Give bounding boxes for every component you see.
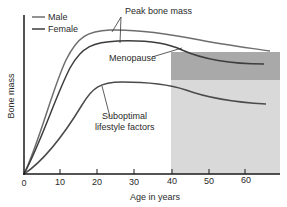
bone-mass-chart: 0 10 20 30 40 50 60 Age in years Bone ma… [0,0,287,207]
y-axis-label: Bone mass [6,73,16,119]
x-tick-label: 10 [55,177,65,187]
x-tick-label: 30 [129,177,139,187]
annotation-suboptimal-2: lifestyle factors [95,122,155,132]
legend-label-female: Female [48,24,78,34]
x-tick-label: 40 [167,176,177,186]
annotation-suboptimal-1: Suboptimal [102,111,147,121]
x-tick-label: 60 [241,175,251,185]
annotation-peak-bone-mass: Peak bone mass [125,6,193,16]
legend: Male Female [32,12,78,34]
peak-pointer-female [120,17,121,43]
annotation-menopause: Menopause [109,53,156,63]
legend-label-male: Male [48,12,68,22]
x-tick-label: 20 [92,177,102,187]
shaded-region-lower [171,80,280,174]
x-tick-label: 0 [21,178,26,188]
shaded-region-upper [171,52,280,80]
x-axis-label: Age in years [130,192,181,202]
x-tick-label: 50 [204,176,214,186]
